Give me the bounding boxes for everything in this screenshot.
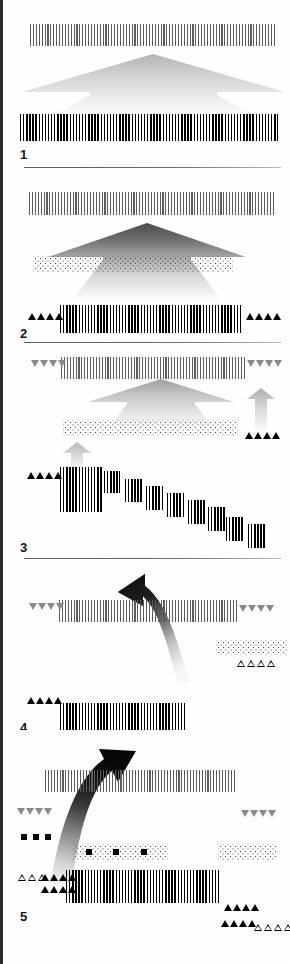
triangle-marker xyxy=(27,697,35,704)
hatched-band-upper-crust xyxy=(59,600,237,622)
triangle-row-normal-left-p4 xyxy=(29,603,64,610)
triangle-marker xyxy=(255,313,263,320)
triangle-marker xyxy=(31,360,39,367)
hatched-band-upper-crust xyxy=(61,357,246,379)
ophiolite-square xyxy=(21,834,27,840)
ophiolite-square-inclusion xyxy=(113,849,119,855)
triangle-marker xyxy=(247,360,255,367)
stipple-band-sediment xyxy=(216,640,288,655)
triangle-marker-open xyxy=(284,924,290,931)
stipple-band-sediment xyxy=(63,420,238,435)
triangle-row-thrust-right-p3 xyxy=(245,432,280,439)
triangle-marker-open xyxy=(264,924,272,931)
triangle-marker xyxy=(29,603,37,610)
triangle-marker xyxy=(35,808,43,815)
triangle-marker-open xyxy=(237,660,245,667)
triangle-marker xyxy=(239,920,247,927)
triangle-row-thrust-left-upper-p5 xyxy=(41,874,76,881)
triangle-marker xyxy=(263,432,271,439)
hatched-band-upper-crust xyxy=(30,24,275,46)
triangle-marker xyxy=(241,810,249,817)
triangle-row-thrust-right-upper-p5 xyxy=(224,904,259,911)
triangle-marker xyxy=(251,904,259,911)
triangle-marker xyxy=(59,874,67,881)
ophiolite-square-inclusion xyxy=(86,849,92,855)
triangle-marker xyxy=(45,472,53,479)
step-block xyxy=(146,486,164,510)
triangle-marker xyxy=(248,605,256,612)
stage-number-1: 1 xyxy=(20,148,27,161)
triangle-marker xyxy=(265,360,273,367)
ophiolite-square xyxy=(33,834,39,840)
triangle-marker xyxy=(254,432,262,439)
triangle-marker xyxy=(274,360,282,367)
hatched-band-lower-crust xyxy=(66,870,221,903)
triangle-marker xyxy=(230,920,238,927)
triangle-marker xyxy=(68,886,76,893)
triangle-marker-open xyxy=(28,874,36,881)
triangle-marker xyxy=(221,920,229,927)
triangle-marker xyxy=(259,810,267,817)
ophiolite-square xyxy=(45,834,51,840)
triangle-marker xyxy=(233,904,241,911)
triangle-marker xyxy=(59,886,67,893)
triangle-marker xyxy=(242,904,250,911)
triangle-marker xyxy=(36,472,44,479)
triangle-row-thrust-right-lower-p5 xyxy=(221,920,256,927)
panel-divider-1 xyxy=(24,167,281,168)
triangle-marker xyxy=(37,313,45,320)
triangle-row-normal-left-p5 xyxy=(17,808,52,815)
stipple-band-sediment xyxy=(33,256,233,273)
triangle-marker xyxy=(246,313,254,320)
triangle-row-thrust-left-p2 xyxy=(28,313,63,320)
triangle-marker xyxy=(250,810,258,817)
panel-stage-1: 1 xyxy=(3,0,290,170)
panel-stage-5: 5 xyxy=(3,730,290,964)
triangle-marker xyxy=(257,605,265,612)
triangle-marker xyxy=(58,360,66,367)
triangle-marker xyxy=(44,808,52,815)
triangle-row-thrust-left-p4 xyxy=(27,697,62,704)
triangle-marker xyxy=(56,603,64,610)
triangle-marker xyxy=(46,313,54,320)
triangle-marker xyxy=(47,603,55,610)
curved-arrow-subduction-rollback xyxy=(98,570,213,685)
panel-divider-3 xyxy=(24,558,281,559)
triangle-marker xyxy=(17,808,25,815)
gradient-wedge-small-uplift-right xyxy=(246,387,276,432)
stage-number-2: 2 xyxy=(20,327,27,340)
panel-stage-4: 4 xyxy=(3,560,290,730)
step-block xyxy=(188,500,206,524)
triangle-marker xyxy=(268,810,276,817)
stage-number-3: 3 xyxy=(20,541,27,554)
step-block xyxy=(125,479,143,502)
triangle-row-open-right-p4 xyxy=(237,660,275,667)
hatched-band-lower-crust xyxy=(60,305,243,333)
step-block xyxy=(167,493,185,517)
triangle-marker xyxy=(266,605,274,612)
triangle-marker-open xyxy=(254,924,262,931)
triangle-marker xyxy=(41,874,49,881)
step-block xyxy=(248,524,266,548)
triangle-row-thrust-left-lower-p5 xyxy=(41,886,76,893)
triangle-marker xyxy=(50,874,58,881)
triangle-marker xyxy=(245,432,253,439)
triangle-marker xyxy=(264,313,272,320)
triangle-row-open-right-p5 xyxy=(254,924,290,931)
triangle-marker xyxy=(273,313,281,320)
square-row-ophiolite-markers xyxy=(21,834,51,840)
triangle-marker xyxy=(54,697,62,704)
triangle-marker xyxy=(50,886,58,893)
triangle-marker xyxy=(239,605,247,612)
triangle-marker xyxy=(36,697,44,704)
step-block xyxy=(226,517,244,541)
step-block xyxy=(208,507,226,531)
triangle-row-normal-right-p4 xyxy=(239,605,274,612)
triangle-row-thrust-right-p2 xyxy=(246,313,281,320)
triangle-row-normal-right-p3 xyxy=(247,360,282,367)
triangle-marker-open xyxy=(274,924,282,931)
triangle-marker-open xyxy=(247,660,255,667)
triangle-marker xyxy=(27,472,35,479)
figure-root: 1 2 xyxy=(0,0,290,964)
panel-stage-3: 3 xyxy=(3,345,290,560)
